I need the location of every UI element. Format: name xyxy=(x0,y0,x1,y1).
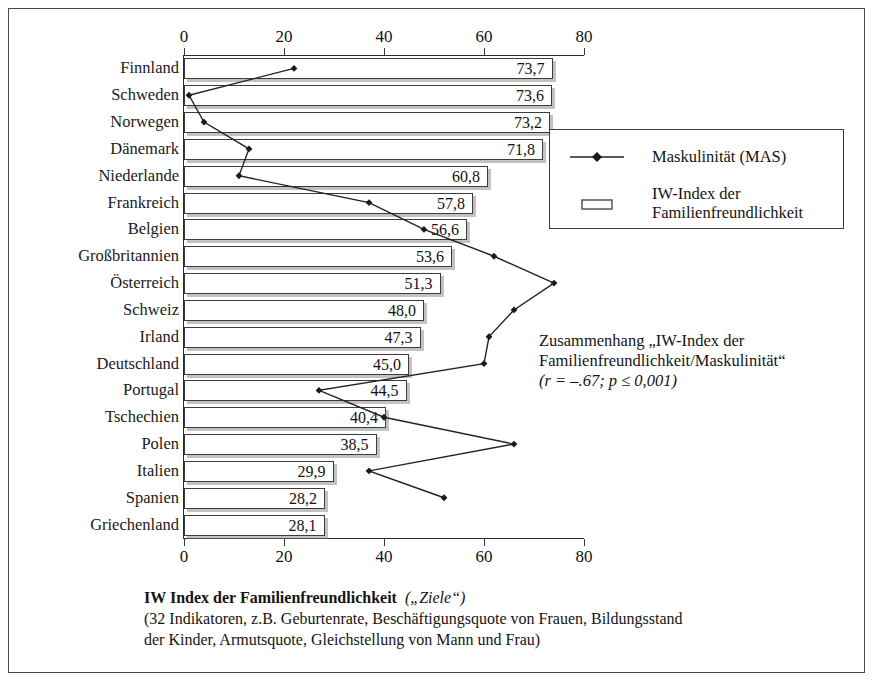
correlation-annotation: Zusammenhang „IW-Index der Familienfreun… xyxy=(539,331,859,391)
caption-line-2: (32 Indikatoren, z.B. Geburtenrate, Besc… xyxy=(144,608,844,629)
legend: Maskulinität (MAS) IW-Index der Familien… xyxy=(549,129,844,229)
mas-polyline xyxy=(189,68,554,497)
mas-data-point xyxy=(491,253,498,260)
legend-label-iw-index-line1: IW-Index der xyxy=(652,185,803,204)
mas-data-point xyxy=(511,441,518,448)
caption-line-3: der Kinder, Armutsquote, Gleichstellung … xyxy=(144,629,844,650)
bar-swatch-icon xyxy=(568,197,626,211)
annotation-line-3: (r = –.67; p ≤ 0,001) xyxy=(539,371,859,391)
mas-data-point xyxy=(186,92,193,99)
caption-title-row: IW Index der Familienfreundlichkeit („Zi… xyxy=(144,587,844,608)
chart-frame: 020406080 020406080 FinnlandSchwedenNorw… xyxy=(8,8,865,673)
legend-label-mas: Maskulinität (MAS) xyxy=(652,148,786,167)
annotation-line-1: Zusammenhang „IW-Index der xyxy=(539,331,859,351)
legend-label-iw-index-line2: Familienfreundlichkeit xyxy=(652,204,803,223)
mas-data-point xyxy=(366,468,373,475)
mas-data-point xyxy=(381,414,388,421)
caption-title-bold: IW Index der Familienfreundlichkeit xyxy=(144,589,397,606)
mas-data-point xyxy=(441,494,448,501)
mas-data-point xyxy=(291,65,298,72)
annotation-line-2: Familienfreundlichkeit/Maskulinität“ xyxy=(539,351,859,371)
legend-item-mas: Maskulinität (MAS) xyxy=(568,148,786,167)
mas-data-point xyxy=(201,119,208,126)
mas-data-point xyxy=(316,387,323,394)
mas-data-point xyxy=(236,172,243,179)
caption-title-italic: („Ziele“) xyxy=(405,589,465,606)
mas-data-point xyxy=(481,360,488,367)
mas-data-point xyxy=(246,146,253,153)
mas-data-point xyxy=(366,199,373,206)
mas-data-point xyxy=(421,226,428,233)
legend-item-iw-index: IW-Index der Familienfreundlichkeit xyxy=(568,185,803,223)
line-diamond-marker-icon xyxy=(568,150,626,164)
figure-caption: IW Index der Familienfreundlichkeit („Zi… xyxy=(144,587,844,650)
